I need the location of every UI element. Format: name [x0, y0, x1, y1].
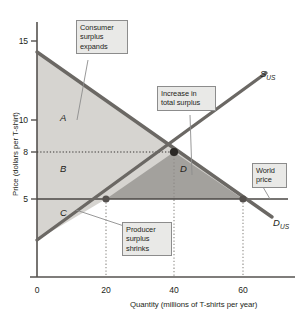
x-tick-label-20: 20 [96, 285, 116, 295]
supply-curve-label: SUS [260, 68, 276, 81]
demand-curve-label-text: D [273, 217, 280, 228]
point-domestic-demand-at-world-price [239, 195, 246, 202]
x-axis-title: Quantity (millions of T-shirts per year) [130, 300, 257, 309]
x-tick-label-40: 40 [164, 285, 184, 295]
leader-line-producer-surplus [76, 210, 124, 226]
region-label-b: B [60, 163, 66, 174]
shaded-regions [37, 52, 243, 240]
y-tick-label-5: 5 [6, 194, 28, 204]
x-tick-label-0: 0 [27, 285, 47, 295]
leader-line-world-price [263, 187, 270, 199]
callout-world-price: World price [252, 163, 287, 188]
callout-total-surplus: Increase in total surplus [157, 86, 216, 111]
y-tick-label-15: 15 [6, 36, 28, 46]
y-axis-ticks [31, 41, 37, 199]
callout-producer-surplus: Producer surplus shrinks [122, 222, 172, 256]
region-label-c: C [60, 207, 67, 218]
demand-curve-label-sub: US [280, 223, 289, 230]
point-no-trade-equilibrium [170, 148, 178, 156]
x-tick-label-60: 60 [233, 285, 253, 295]
callout-consumer-surplus: Consumer surplus expands [76, 20, 128, 54]
point-domestic-supply-at-world-price [102, 195, 109, 202]
supply-curve-label-sub: US [266, 74, 275, 81]
region-label-d: D [180, 163, 187, 174]
region-label-a: A [60, 112, 66, 123]
figure-caption-strip [0, 309, 301, 321]
plot-canvas [0, 0, 301, 321]
economics-figure: Price (dollars per T-shirt) 15 10 8 5 0 … [0, 0, 301, 321]
y-tick-label-8: 8 [6, 147, 28, 157]
demand-curve-label: DUS [273, 217, 289, 230]
y-tick-label-10: 10 [6, 115, 28, 125]
